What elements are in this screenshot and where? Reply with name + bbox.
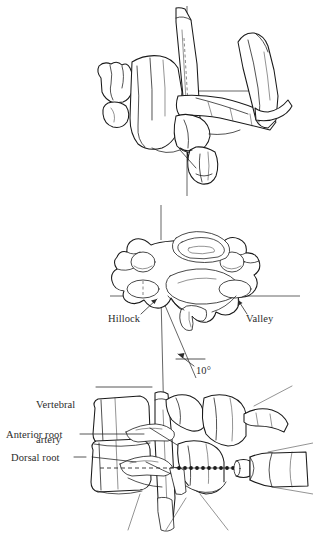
- label-needle-angle: 10°: [196, 365, 211, 377]
- faint-guide-3: [128, 494, 140, 530]
- syringe-hub-tip: [234, 461, 240, 476]
- left-transverse-process: [98, 62, 134, 103]
- upper-transverse-process: [166, 395, 206, 431]
- connector-arc-3: [209, 130, 240, 135]
- superior-transverse-tip: [244, 409, 288, 432]
- syringe-barrel: [250, 452, 308, 487]
- label-valley: Valley: [246, 313, 273, 325]
- oblique-vertebra-drawing: [98, 8, 292, 184]
- valley-leader: [238, 300, 248, 314]
- syringe-lower-edge: [272, 487, 313, 494]
- artery-descending-tail: [158, 497, 174, 531]
- axial-vertebra-drawing: [112, 232, 260, 366]
- anatomical-figure: .ln { fill:none; stroke:#1a1a1a; stroke-…: [0, 0, 313, 537]
- label-hillock: Hillock: [108, 313, 140, 325]
- vertical-midline-mid-lower: [161, 296, 163, 382]
- lateral-spine-drawing: [74, 386, 313, 531]
- label-dorsal-root: Dorsal root: [11, 452, 60, 464]
- valley-tubercle: [219, 280, 251, 298]
- faint-guide-1: [254, 386, 292, 406]
- spinous-process-oblique: [188, 147, 218, 184]
- spinal-canal-outer: [172, 232, 229, 263]
- upper-articular-pillar: [202, 395, 246, 446]
- syringe-upper-edge: [268, 443, 313, 452]
- pedicle-junction: [174, 114, 210, 152]
- label-anterior-root: Anterior root: [6, 429, 62, 441]
- faint-guide-4: [200, 494, 228, 530]
- label-vertebral-artery-line1: Vertebral: [36, 399, 75, 411]
- left-inferior-tubercle: [103, 102, 129, 127]
